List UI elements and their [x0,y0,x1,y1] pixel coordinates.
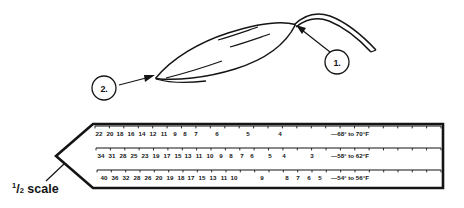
scale-value: 36 [112,175,119,181]
scale-value: 17 [164,153,171,159]
scale-value: 5 [246,131,249,137]
scale-value: 20 [107,131,114,137]
scale-value: 7 [296,175,299,181]
scale-value: 15 [199,175,206,181]
scale-value: 11 [196,153,203,159]
fraction-denominator: 2 [20,186,24,195]
scale-value: 28 [134,175,141,181]
scale-value: 10 [231,175,238,181]
scale-value: 5 [268,153,271,159]
scale-value: 9 [260,175,263,181]
scale-value: 12 [150,131,157,137]
scale-value: 32 [123,175,130,181]
scale-value: 9 [219,153,222,159]
scale-value: 18 [178,175,185,181]
scale-value: 6 [215,131,218,137]
scale-value: 6 [307,175,310,181]
scale-value: 6 [250,153,253,159]
scale-value: 7 [194,131,197,137]
scale-value: 23 [142,153,149,159]
scale-value: 17 [188,175,195,181]
scale-value: 31 [109,153,116,159]
scale-value: 11 [161,131,168,137]
scale-value: 7 [240,153,243,159]
temperature-range-label: —54° to 56°F [331,175,369,181]
scale-value: 5 [318,175,321,181]
scale-value: 26 [145,175,152,181]
scale-value: 13 [210,175,217,181]
scale-value: 13 [185,153,192,159]
scale-value: 22 [96,131,103,137]
scale-value: 8 [183,131,186,137]
scale-value: 20 [156,175,163,181]
scale-value: 16 [128,131,135,137]
scale-caption: 1/2 scale [12,182,59,196]
scale-value: 9 [173,131,176,137]
scale-value: 8 [229,153,232,159]
scale-value: 8 [285,175,288,181]
scale-word: scale [27,182,58,196]
scale-value: 18 [117,131,124,137]
scale-value: 25 [131,153,138,159]
scale-value: 40 [101,175,108,181]
temperature-range-label: —68° to 70°F [331,131,369,137]
scale-value: 4 [278,131,281,137]
scale-value: 14 [139,131,146,137]
scale-fraction: 1/2 [12,182,24,196]
scale-value: 3 [310,153,313,159]
scale-value: 11 [221,175,228,181]
scale-value: 10 [207,153,214,159]
scale-value: 28 [120,153,127,159]
temperature-range-label: —58° to 62°F [331,153,369,159]
scale-value: 4 [282,153,285,159]
figure-canvas: 1. 2. 22201816141211987654—68° to 70°F34… [0,0,464,208]
scale-caption-leader [46,164,64,181]
scale-value: 34 [98,153,105,159]
scale-value: 19 [153,153,160,159]
scale-value: 19 [167,175,174,181]
scale-value: 15 [175,153,182,159]
